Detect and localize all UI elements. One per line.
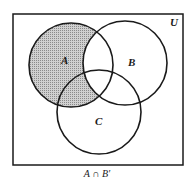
venn-diagram: U A B C A ∩ B′	[0, 0, 193, 182]
set-a-label: A	[60, 54, 68, 66]
universe-label: U	[170, 16, 179, 28]
set-c-label: C	[95, 115, 103, 127]
set-b-label: B	[127, 56, 135, 68]
diagram-caption: A ∩ B′	[83, 168, 111, 179]
